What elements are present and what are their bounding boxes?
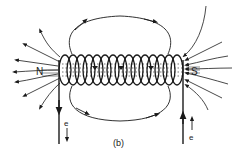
figure-caption: (b) — [113, 138, 124, 148]
south-pole-label: S — [191, 66, 198, 77]
electron-label-left: e — [64, 119, 69, 128]
solenoid-coil — [59, 55, 183, 85]
electron-flow-arrows — [67, 118, 192, 140]
south-field-lines — [184, 6, 232, 110]
top-field-loop — [69, 16, 170, 54]
north-pole-label: N — [36, 66, 43, 77]
electron-label-right: e — [189, 133, 194, 142]
bottom-field-loop — [70, 86, 171, 121]
solenoid-diagram: N S e e (b) — [0, 0, 239, 158]
lead-wires — [59, 60, 183, 144]
